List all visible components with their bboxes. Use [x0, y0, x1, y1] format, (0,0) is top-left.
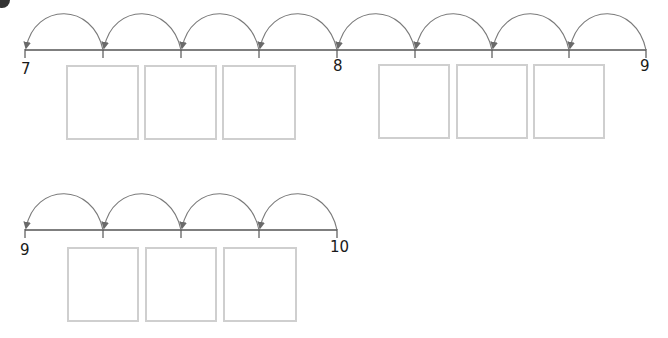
hop-arrow	[570, 14, 646, 50]
hop-arrow	[26, 14, 103, 50]
answer-box[interactable]	[378, 64, 450, 139]
hop-arrow	[104, 194, 181, 230]
label-9-top: 9	[640, 59, 650, 74]
answer-box[interactable]	[223, 247, 297, 322]
answer-box[interactable]	[222, 65, 296, 140]
hop-arrow	[493, 14, 569, 50]
answer-box[interactable]	[67, 247, 139, 322]
hop-arrow	[104, 14, 181, 50]
hop-arrow	[260, 14, 337, 50]
answer-box[interactable]	[144, 65, 217, 140]
label-7: 7	[21, 62, 31, 77]
answer-box[interactable]	[145, 247, 217, 322]
hop-arrow	[338, 14, 415, 50]
number-line-9-to-10	[25, 194, 337, 238]
answer-box[interactable]	[66, 65, 139, 140]
label-8: 8	[333, 59, 343, 74]
answer-box[interactable]	[533, 64, 605, 139]
label-10: 10	[330, 240, 349, 255]
hop-arrow	[182, 14, 259, 50]
hop-arrow	[26, 194, 103, 230]
hop-arrow	[416, 14, 492, 50]
hop-arrow	[260, 194, 337, 230]
number-line-7-to-9	[25, 14, 646, 58]
hop-arrow	[182, 194, 259, 230]
answer-box[interactable]	[456, 64, 528, 139]
label-9-bottom: 9	[20, 243, 30, 258]
